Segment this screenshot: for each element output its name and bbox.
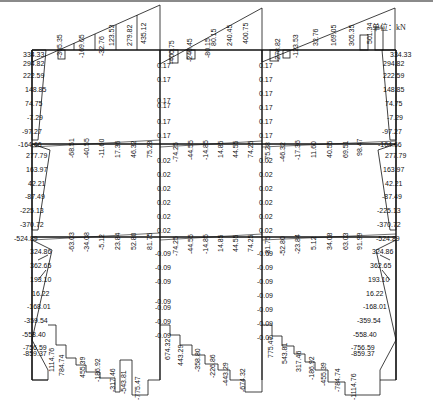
- svg-text:0.17: 0.17: [259, 76, 273, 83]
- svg-text:-317.46: -317.46: [109, 368, 116, 392]
- svg-text:-359.54: -359.54: [24, 317, 48, 324]
- svg-text:-44.55: -44.55: [187, 234, 194, 254]
- svg-text:0.17: 0.17: [157, 118, 171, 125]
- frame-lines: [32, 50, 396, 380]
- svg-text:-370.72: -370.72: [20, 221, 44, 228]
- svg-text:14.85: 14.85: [217, 234, 224, 252]
- svg-text:-0.09: -0.09: [155, 278, 171, 285]
- svg-text:-186.92: -186.92: [308, 356, 315, 380]
- svg-text:0.17: 0.17: [259, 104, 273, 111]
- svg-text:222.59: 222.59: [383, 72, 405, 79]
- svg-text:-87.49: -87.49: [25, 193, 45, 200]
- svg-text:-443.29: -443.29: [222, 362, 229, 386]
- svg-text:98.47: 98.47: [356, 138, 363, 156]
- svg-text:69.51: 69.51: [342, 140, 349, 158]
- svg-text:0.02: 0.02: [259, 185, 273, 192]
- svg-text:-558.40: -558.40: [22, 331, 46, 338]
- svg-text:-46.32: -46.32: [279, 142, 286, 162]
- svg-text:-775.47: -775.47: [134, 376, 141, 400]
- svg-text:775.47: 775.47: [267, 336, 274, 358]
- svg-text:-0.09: -0.09: [155, 318, 171, 325]
- svg-text:148.85: 148.85: [25, 86, 47, 93]
- svg-text:-0.09: -0.09: [257, 278, 273, 285]
- interior-column-labels: 0.17 0.17 0.17 0.17 0.17 0.17 0.17 0.17 …: [155, 62, 273, 341]
- svg-text:74.25: 74.25: [247, 234, 254, 252]
- svg-text:-164.66: -164.66: [378, 141, 402, 148]
- svg-text:-17.36: -17.36: [294, 140, 301, 160]
- svg-text:74.25: 74.25: [247, 140, 254, 158]
- svg-text:16.22: 16.22: [366, 290, 384, 297]
- svg-text:-370.72: -370.72: [377, 221, 401, 228]
- svg-text:-240.45: -240.45: [186, 38, 193, 62]
- svg-text:-63.03: -63.03: [68, 232, 75, 252]
- svg-text:-68.51: -68.51: [68, 138, 75, 158]
- svg-text:443.29: 443.29: [177, 344, 184, 366]
- svg-text:0.02: 0.02: [259, 227, 273, 234]
- svg-text:305.35: 305.35: [348, 24, 355, 46]
- svg-text:294.82: 294.82: [23, 60, 45, 67]
- svg-text:-859.37: -859.37: [23, 350, 47, 357]
- svg-text:163.97: 163.97: [383, 166, 405, 173]
- svg-text:14.85: 14.85: [217, 140, 224, 158]
- svg-text:123.53: 123.53: [108, 24, 115, 46]
- svg-text:334.33: 334.33: [23, 51, 45, 58]
- svg-text:279.82: 279.82: [126, 24, 133, 46]
- svg-text:0.02: 0.02: [157, 213, 171, 220]
- svg-text:-14.85: -14.85: [202, 234, 209, 254]
- svg-text:-455.39: -455.39: [320, 362, 327, 386]
- svg-text:-524.89: -524.89: [14, 235, 38, 242]
- svg-text:-97.27: -97.27: [22, 128, 42, 135]
- svg-text:-400.75: -400.75: [168, 40, 175, 64]
- svg-text:455.39: 455.39: [79, 356, 86, 378]
- svg-text:222.59: 222.59: [23, 72, 45, 79]
- svg-text:-123.53: -123.53: [292, 34, 299, 58]
- svg-text:1114.76: 1114.76: [48, 348, 55, 372]
- svg-text:362.65: 362.65: [30, 262, 52, 269]
- svg-text:0.02: 0.02: [157, 157, 171, 164]
- svg-text:362.65: 362.65: [370, 262, 392, 269]
- svg-text:0.17: 0.17: [157, 132, 171, 139]
- svg-text:435.12: 435.12: [140, 22, 147, 44]
- svg-text:-524.89: -524.89: [376, 235, 400, 242]
- svg-text:324.86: 324.86: [372, 248, 394, 255]
- svg-text:42.21: 42.21: [385, 180, 403, 187]
- svg-text:44.55: 44.55: [232, 234, 239, 252]
- svg-text:294.82: 294.82: [383, 60, 405, 67]
- svg-text:-558.40: -558.40: [353, 331, 377, 338]
- svg-text:277.79: 277.79: [385, 152, 407, 159]
- svg-text:-225.13: -225.13: [20, 207, 44, 214]
- svg-text:277.79: 277.79: [26, 152, 48, 159]
- svg-text:-164.66: -164.66: [18, 141, 42, 148]
- svg-text:0.17: 0.17: [259, 132, 273, 139]
- svg-text:-0.09: -0.09: [155, 250, 171, 257]
- svg-text:-11.60: -11.60: [98, 139, 105, 158]
- svg-text:81.75: 81.75: [146, 232, 153, 250]
- svg-text:674.32: 674.32: [164, 338, 171, 360]
- svg-text:-1114.76: -1114.76: [350, 373, 357, 400]
- svg-text:334.33: 334.33: [390, 51, 412, 58]
- column-shear-diagram: [32, 50, 396, 380]
- svg-text:0.17: 0.17: [259, 90, 273, 97]
- mid-beam-labels: -68.51 -40.55 -11.60 17.36 46.32 75.28 -…: [68, 138, 363, 162]
- svg-text:-7.29: -7.29: [387, 114, 403, 121]
- svg-text:0.02: 0.02: [259, 199, 273, 206]
- svg-text:-74.25: -74.25: [172, 142, 179, 162]
- svg-text:-32.76: -32.76: [98, 36, 105, 56]
- svg-text:-226.86: -226.86: [209, 354, 216, 378]
- svg-text:163.97: 163.97: [26, 166, 48, 173]
- svg-text:-278.82: -278.82: [274, 38, 281, 62]
- svg-text:-14.85: -14.85: [202, 140, 209, 160]
- svg-text:543.81: 543.81: [281, 342, 288, 364]
- svg-text:-784.74: -784.74: [334, 368, 341, 392]
- svg-text:-81.75: -81.75: [264, 236, 271, 256]
- svg-text:0.17: 0.17: [259, 118, 273, 125]
- svg-text:23.84: 23.84: [114, 232, 121, 250]
- svg-text:-23.84: -23.84: [294, 234, 301, 254]
- svg-text:-358.80: -358.80: [194, 348, 201, 372]
- svg-text:74.75: 74.75: [25, 100, 43, 107]
- svg-text:-0.09: -0.09: [155, 332, 171, 339]
- svg-text:-34.08: -34.08: [83, 232, 90, 252]
- svg-text:80.15: 80.15: [210, 28, 217, 46]
- svg-text:-0.09: -0.09: [257, 292, 273, 299]
- svg-text:-225.13: -225.13: [377, 207, 401, 214]
